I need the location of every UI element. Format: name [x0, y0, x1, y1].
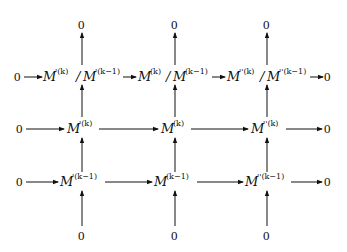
row1-right-zero: 0 — [324, 69, 331, 84]
row3-right-zero: 0 — [324, 174, 331, 189]
commutative-diagram: 0 0 0 0 M '(k) / M '(k−1) M (k) — [0, 0, 347, 252]
quotient-row: 0 M '(k) / M '(k−1) M (k) / M (k−1) M ''… — [14, 67, 331, 84]
svg-text:''(k−1): ''(k−1) — [257, 172, 284, 181]
svg-text:'(k−1): '(k−1) — [72, 172, 97, 181]
node-quotient-prime: M '(k) / M '(k−1) — [42, 67, 120, 84]
vertical-arrows-bottom — [82, 191, 267, 226]
top-zero-2: 0 — [171, 17, 178, 32]
node-m-double-prime-k: M ''(k) — [250, 119, 279, 136]
svg-text:(k): (k) — [150, 67, 161, 76]
top-zeros: 0 0 0 — [78, 17, 270, 32]
svg-text:'(k): '(k) — [55, 67, 68, 76]
bottom-zero-1: 0 — [78, 228, 85, 243]
svg-text:''(k): ''(k) — [239, 67, 255, 76]
svg-text:'(k−1): '(k−1) — [95, 67, 120, 76]
node-m-prime-k: M '(k) — [66, 119, 92, 136]
row2-right-zero: 0 — [324, 121, 331, 136]
bottom-zero-3: 0 — [263, 228, 270, 243]
vertical-arrows-mid-top — [82, 85, 267, 117]
vertical-arrows-mid-bottom — [82, 138, 267, 172]
svg-text:/: / — [164, 69, 172, 84]
svg-text:(k): (k) — [173, 119, 184, 128]
node-quotient-double-prime: M ''(k) / M ''(k−1) — [226, 67, 306, 84]
row1-left-zero: 0 — [14, 69, 21, 84]
svg-text:''(k): ''(k) — [263, 119, 279, 128]
top-zero-3: 0 — [263, 17, 270, 32]
node-m-double-prime-k-1: M ''(k−1) — [244, 172, 284, 189]
svg-text:(k−1): (k−1) — [166, 172, 189, 181]
bottom-zero-2: 0 — [171, 228, 178, 243]
top-zero-1: 0 — [78, 17, 85, 32]
node-m-prime-k-1: M '(k−1) — [59, 172, 97, 189]
bottom-zeros: 0 0 0 — [78, 228, 270, 243]
row2-left-zero: 0 — [16, 121, 23, 136]
svg-text:'(k): '(k) — [79, 119, 92, 128]
vertical-arrows-top — [82, 33, 267, 65]
filtration-k-minus-1-row: 0 M '(k−1) M (k−1) M ''(k−1) 0 — [16, 172, 331, 189]
svg-text:(k−1): (k−1) — [185, 67, 208, 76]
filtration-k-row: 0 M '(k) M (k) M ''(k) 0 — [16, 119, 331, 136]
node-m-k-1: M (k−1) — [153, 172, 189, 189]
node-quotient: M (k) / M (k−1) — [137, 67, 208, 84]
svg-text:''(k−1): ''(k−1) — [279, 67, 306, 76]
svg-text:/: / — [258, 69, 266, 84]
svg-text:/: / — [74, 69, 82, 84]
row3-left-zero: 0 — [16, 174, 23, 189]
node-m-k: M (k) — [160, 119, 184, 136]
